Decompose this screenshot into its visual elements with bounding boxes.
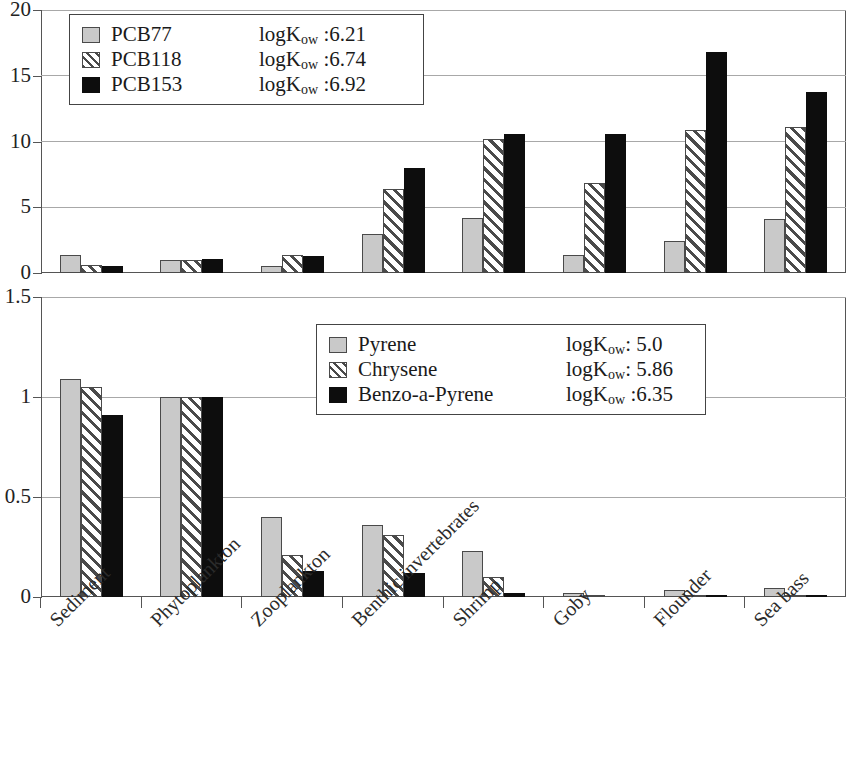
legend-logkow-value: logKow: 5.86 [566,357,673,383]
logkow-subscript: ow [301,82,318,97]
bar-group [645,10,746,273]
chart-figure: 05101520 00.511.5 SedimentPhytoplanktonZ… [0,0,855,762]
bar [504,134,525,273]
bar-group [745,297,846,597]
y-axis-tick-label: 0 [0,262,31,283]
legend-series-name: PCB153 [111,72,259,97]
y-axis-tick-label: 1.5 [0,286,31,307]
legend-series-name: Pyrene [358,332,566,357]
y-axis-tick-label: 0.5 [0,486,31,507]
top-legend: PCB77logKow :6.21PCB118logKow :6.74PCB15… [69,14,424,105]
bar [160,397,181,597]
bar [202,259,223,273]
legend-entry: ChrysenelogKow: 5.86 [329,357,693,382]
bar-group [745,10,846,273]
y-axis-tick-mark [33,397,42,398]
bar [563,255,584,273]
legend-series-name: PCB118 [111,47,259,72]
legend-logkow-value: logKow :6.21 [259,22,366,48]
y-axis-tick-mark [33,10,42,11]
bar-group [41,297,142,597]
legend-entry: PCB118logKow :6.74 [82,47,411,72]
bar [584,183,605,273]
bar [60,379,81,597]
bar [706,595,727,597]
y-axis-tick-label: 5 [0,196,31,217]
legend-swatch-icon [329,387,347,403]
y-axis-tick-mark [33,297,42,298]
legend-entry: PCB77logKow :6.21 [82,22,411,47]
logkow-subscript: ow [608,392,625,407]
y-axis-tick-label: 0 [0,586,31,607]
y-axis-tick-mark [33,76,42,77]
bar [605,134,626,273]
bar [102,266,123,273]
legend-logkow-value: logKow :6.35 [566,382,673,408]
y-axis-tick-label: 20 [0,0,31,20]
legend-entry: Benzo-a-PyrenelogKow :6.35 [329,382,693,407]
bar [160,260,181,273]
legend-entry: PyrenelogKow: 5.0 [329,332,693,357]
bar [806,595,827,597]
legend-logkow-value: logKow: 5.0 [566,332,662,358]
bar-group [444,10,545,273]
bar [181,260,202,273]
y-axis-tick-label: 15 [0,65,31,86]
bar [404,168,425,273]
legend-swatch-icon [82,52,100,68]
y-axis-tick-label: 10 [0,131,31,152]
bar [706,52,727,273]
bar [362,234,383,273]
legend-swatch-icon [82,27,100,43]
legend-logkow-value: logKow :6.74 [259,47,366,73]
y-axis-tick-label: 1 [0,386,31,407]
bar [685,130,706,273]
bar-group [544,10,645,273]
bar [483,139,504,273]
logkow-subscript: ow [608,367,625,382]
legend-series-name: PCB77 [111,22,259,47]
bar [806,92,827,273]
bottom-legend: PyrenelogKow: 5.0ChrysenelogKow: 5.86Ben… [316,324,706,415]
legend-entry: PCB153logKow :6.92 [82,72,411,97]
bar [282,255,303,273]
bar [81,265,102,273]
legend-swatch-icon [82,77,100,93]
x-axis-category-labels: SedimentPhytoplanktonZooplanktonBenthic … [0,605,855,760]
y-axis-tick-mark [33,273,42,274]
bar [261,266,282,273]
legend-swatch-icon [329,362,347,378]
bar [764,219,785,273]
y-axis-tick-mark [33,142,42,143]
y-axis-tick-mark [33,207,42,208]
logkow-subscript: ow [301,32,318,47]
bar [383,189,404,273]
logkow-subscript: ow [608,342,625,357]
legend-series-name: Benzo-a-Pyrene [358,382,566,407]
legend-series-name: Chrysene [358,357,566,382]
y-axis-tick-mark [33,497,42,498]
bar [785,127,806,273]
bar [462,218,483,273]
bar [60,255,81,273]
legend-logkow-value: logKow :6.92 [259,72,366,98]
bar [303,256,324,273]
bar [664,241,685,273]
legend-swatch-icon [329,337,347,353]
bar [504,593,525,597]
logkow-subscript: ow [301,57,318,72]
